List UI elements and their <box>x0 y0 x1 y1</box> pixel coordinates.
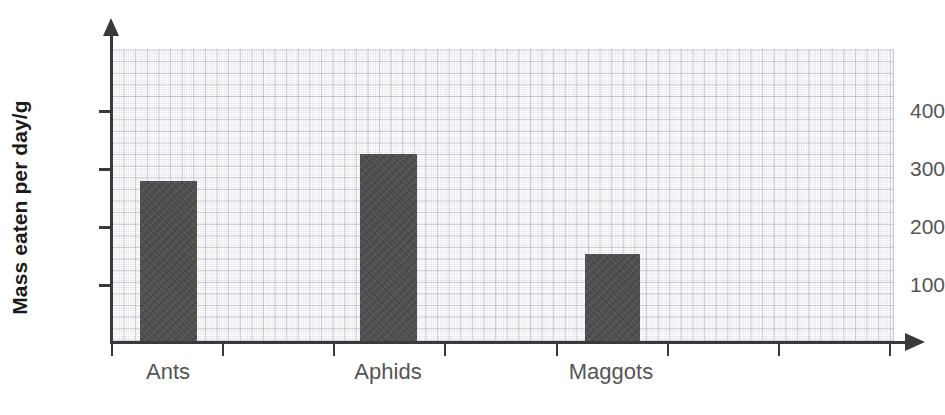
y-axis-title: Mass eaten per day/g <box>0 0 56 415</box>
y-axis-line <box>110 30 113 344</box>
x-tick-mark-5 <box>667 344 669 356</box>
category-label-ants: Ants <box>88 360 248 384</box>
x-tick-mark-4 <box>556 344 558 356</box>
x-tick-mark-1 <box>222 344 224 356</box>
bar-chart: Mass eaten per day/g 400 300 200 100 Ant… <box>0 0 945 415</box>
y-tick-mark-200 <box>99 226 112 229</box>
category-label-aphids: Aphids <box>308 360 468 384</box>
y-tick-label-100: 100 <box>893 274 945 295</box>
bar-aphids <box>360 154 417 342</box>
y-tick-label-400: 400 <box>893 100 945 121</box>
x-tick-mark-2 <box>333 344 335 356</box>
y-axis-arrow-icon <box>103 18 119 36</box>
y-tick-label-200: 200 <box>893 216 945 237</box>
y-tick-mark-100 <box>99 284 112 287</box>
y-tick-mark-400 <box>99 110 112 113</box>
x-axis-arrow-icon <box>905 333 925 351</box>
y-tick-label-300: 300 <box>893 158 945 179</box>
x-tick-mark-7 <box>889 344 891 356</box>
plot-area <box>112 49 894 342</box>
category-label-maggots: Maggots <box>531 360 691 384</box>
y-tick-mark-300 <box>99 168 112 171</box>
bar-maggots <box>585 254 640 342</box>
x-tick-mark-6 <box>778 344 780 356</box>
x-axis-line <box>110 341 920 344</box>
x-tick-mark-3 <box>444 344 446 356</box>
x-tick-mark-0 <box>111 344 113 356</box>
bar-ants <box>140 181 197 342</box>
